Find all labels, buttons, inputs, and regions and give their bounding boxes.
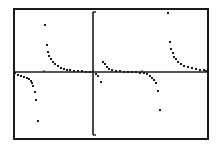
plot-point [85, 71, 87, 73]
plot-point [35, 99, 37, 101]
plot-point [172, 52, 174, 54]
plot-point [48, 55, 50, 57]
plot-point [151, 77, 153, 79]
plot-point [143, 72, 145, 74]
plot-point [115, 70, 117, 72]
plot-point [177, 61, 179, 63]
plot-point [131, 71, 133, 73]
plot-point [167, 12, 169, 14]
plot-point [170, 48, 172, 50]
plot-point [77, 70, 79, 72]
plot-point [47, 51, 49, 53]
plot-point [81, 70, 83, 72]
plot-point [203, 69, 205, 71]
plot-point [139, 72, 141, 74]
plot-point [89, 71, 91, 73]
plot-point [30, 80, 32, 82]
plot-point [104, 63, 106, 65]
plot-point [149, 75, 151, 77]
plot-point [119, 70, 121, 72]
plot-point [14, 72, 16, 74]
plot-point [180, 63, 182, 65]
plot-point [37, 120, 39, 122]
plot-point [50, 58, 52, 60]
plot-point [146, 73, 148, 75]
plot-point [199, 69, 201, 71]
plot-point [69, 69, 71, 71]
plot-point [205, 70, 207, 72]
plot-point [57, 65, 59, 67]
plot-point [73, 70, 75, 72]
plot-point [173, 56, 175, 58]
plot-point [60, 67, 62, 69]
plot-point [34, 91, 36, 93]
plot-point [123, 71, 125, 73]
plot-point [191, 67, 193, 69]
plot-point [183, 65, 185, 67]
plot-point [44, 24, 46, 26]
plot-point [175, 58, 177, 60]
plot-point [95, 73, 97, 75]
plot-point [46, 44, 48, 46]
plot-point [100, 81, 102, 83]
plot-point [66, 69, 68, 71]
plot-point [52, 61, 54, 63]
plot-point [135, 71, 137, 73]
plot-point [157, 90, 159, 92]
plot-point [169, 41, 171, 43]
plot-point [26, 77, 28, 79]
plot-point [54, 63, 56, 65]
graph-frame [14, 9, 208, 139]
plot-point [63, 68, 65, 70]
calculator-graph-screen [0, 0, 220, 150]
plot-point [108, 68, 110, 70]
plotted-points [14, 12, 207, 122]
plot-point [20, 75, 22, 77]
graph-plot [0, 0, 220, 150]
plot-point [102, 61, 104, 63]
plot-point [23, 76, 25, 78]
plot-point [17, 74, 19, 76]
plot-point [111, 69, 113, 71]
plot-point [159, 109, 161, 111]
plot-point [106, 66, 108, 68]
plot-point [28, 78, 30, 80]
plot-point [97, 75, 99, 77]
plot-point [153, 79, 155, 81]
plot-point [32, 85, 34, 87]
plot-point [195, 68, 197, 70]
plot-point [187, 66, 189, 68]
plot-point [127, 71, 129, 73]
plot-point [155, 82, 157, 84]
plot-point [31, 82, 33, 84]
